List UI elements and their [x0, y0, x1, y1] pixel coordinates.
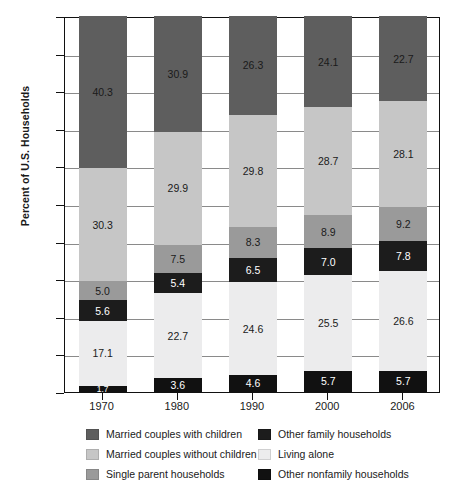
bar-segment: 5.4 — [154, 273, 202, 293]
bar-segment: 26.6 — [379, 271, 427, 371]
legend-item[interactable]: Married couples without children — [86, 444, 261, 464]
legend-item-label: Married couples without children — [106, 448, 257, 460]
bar-segment-value-label: 29.9 — [154, 183, 202, 194]
bar-segment-value-label: 5.6 — [79, 306, 127, 317]
bar-segment-value-label: 40.3 — [79, 87, 127, 98]
bar-segment: 8.9 — [304, 215, 352, 248]
bar-segment: 25.5 — [304, 275, 352, 371]
bar-segment-value-label: 30.9 — [154, 69, 202, 80]
bar-segment-value-label: 28.1 — [379, 149, 427, 160]
bar-segment: 7.0 — [304, 248, 352, 274]
y-axis-tick-mark — [56, 393, 64, 394]
bar-segment: 7.8 — [379, 241, 427, 270]
x-axis-tick-label: 1980 — [142, 400, 212, 412]
bar-segment-value-label: 7.0 — [304, 256, 352, 267]
y-axis-tick-mark — [56, 243, 64, 244]
bar-segment: 26.3 — [229, 16, 277, 115]
bar-stack: 5.726.67.89.228.122.7 — [379, 16, 427, 392]
stacked-bar-chart: Percent of U.S. Households 0102030405060… — [0, 0, 467, 495]
y-axis-tick-mark — [56, 167, 64, 168]
bar-segment: 6.5 — [229, 258, 277, 282]
bar-segment: 1.7 — [79, 386, 127, 392]
bar-stack: 5.725.57.08.928.724.1 — [304, 16, 352, 392]
bar-segment: 30.3 — [79, 168, 127, 282]
bar-segment: 5.7 — [304, 371, 352, 392]
bar-segment-value-label: 30.3 — [79, 219, 127, 230]
bar-segment: 29.9 — [154, 132, 202, 244]
legend-swatch-icon — [258, 449, 271, 460]
bar-segment-value-label: 24.6 — [229, 323, 277, 334]
bar-segment: 28.7 — [304, 107, 352, 215]
bar-segment: 40.3 — [79, 16, 127, 168]
legend-swatch-icon — [86, 449, 99, 460]
bar-segment: 24.6 — [229, 282, 277, 374]
legend-swatch-icon — [86, 429, 99, 440]
bar-segment-value-label: 6.5 — [229, 265, 277, 276]
bar-segment-value-label: 3.6 — [154, 380, 202, 391]
legend-item-label: Other family households — [278, 428, 391, 440]
x-axis-tick-mark — [402, 393, 403, 400]
legend-item-label: Married couples with children — [106, 428, 242, 440]
bar-segment: 5.7 — [379, 371, 427, 392]
legend-item[interactable]: Single parent households — [86, 464, 261, 484]
bar-stack: 3.622.75.47.529.930.9 — [154, 16, 202, 392]
bar-segment-value-label: 5.7 — [379, 376, 427, 387]
legend-swatch-icon — [258, 469, 271, 480]
legend-swatch-icon — [86, 469, 99, 480]
bar-segment-value-label: 1.7 — [79, 385, 127, 394]
bar-segment-value-label: 5.4 — [154, 278, 202, 289]
bar-segment-value-label: 8.3 — [229, 237, 277, 248]
bar-segment: 22.7 — [154, 293, 202, 378]
bar-segment: 4.6 — [229, 375, 277, 392]
y-axis-tick-mark — [56, 205, 64, 206]
y-axis-tick-mark — [56, 355, 64, 356]
bar-segment: 9.2 — [379, 207, 427, 242]
x-axis-tick-mark — [252, 393, 253, 400]
bar-segment: 30.9 — [154, 16, 202, 132]
bar-stack: 4.624.66.58.329.826.3 — [229, 16, 277, 392]
bar-segment-value-label: 29.8 — [229, 166, 277, 177]
bar-segment-value-label: 7.8 — [379, 251, 427, 262]
legend-item[interactable]: Living alone — [258, 444, 448, 464]
y-axis-tick-mark — [56, 17, 64, 18]
bar-segment-value-label: 26.6 — [379, 315, 427, 326]
bar-segment-value-label: 24.1 — [304, 56, 352, 67]
x-axis-tick-mark — [327, 393, 328, 400]
legend-item-label: Single parent households — [106, 468, 225, 480]
legend-item-label: Other nonfamily households — [278, 468, 409, 480]
y-axis-tick-mark — [56, 92, 64, 93]
bar-segment-value-label: 9.2 — [379, 219, 427, 230]
bar-segment-value-label: 5.0 — [79, 286, 127, 297]
plot-area: 1.717.15.65.030.340.33.622.75.47.529.930… — [64, 17, 440, 393]
bar-segment-value-label: 5.7 — [304, 376, 352, 387]
bar-segment-value-label: 25.5 — [304, 317, 352, 328]
x-axis-tick-mark — [102, 393, 103, 400]
y-axis-tick-mark — [56, 280, 64, 281]
bar-segment: 22.7 — [379, 16, 427, 101]
bar-segment: 28.1 — [379, 101, 427, 207]
bar-segment-value-label: 7.5 — [154, 253, 202, 264]
legend-item[interactable]: Other nonfamily households — [258, 464, 448, 484]
legend-item[interactable]: Married couples with children — [86, 424, 261, 444]
bar-segment-value-label: 22.7 — [379, 53, 427, 64]
legend-column-right: Other family householdsLiving aloneOther… — [258, 424, 448, 484]
legend-column-left: Married couples with childrenMarried cou… — [86, 424, 261, 484]
bar-segment-value-label: 26.3 — [229, 60, 277, 71]
bar-segment-value-label: 28.7 — [304, 156, 352, 167]
bar-segment: 3.6 — [154, 378, 202, 392]
bar-segment-value-label: 17.1 — [79, 348, 127, 359]
bar-segment: 29.8 — [229, 115, 277, 227]
y-axis-tick-mark — [56, 55, 64, 56]
bar-segment: 8.3 — [229, 227, 277, 258]
bar-segment: 24.1 — [304, 16, 352, 107]
x-axis-tick-label: 2006 — [367, 400, 437, 412]
x-axis-tick-label: 1990 — [217, 400, 287, 412]
legend-item[interactable]: Other family households — [258, 424, 448, 444]
bar-stack: 1.717.15.65.030.340.3 — [79, 16, 127, 392]
legend-swatch-icon — [258, 429, 271, 440]
x-axis-tick-mark — [177, 393, 178, 400]
x-axis-tick-label: 1970 — [67, 400, 137, 412]
bar-segment-value-label: 22.7 — [154, 331, 202, 342]
bar-segment-value-label: 8.9 — [304, 226, 352, 237]
legend-item-label: Living alone — [278, 448, 334, 460]
